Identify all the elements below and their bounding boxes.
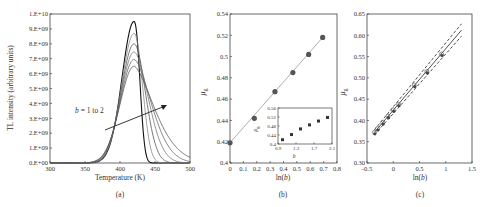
panel-a-curves [50, 21, 190, 163]
x-tick-label: 450 [150, 165, 160, 172]
panel-a-y-ticks: 0.E+001.E+092.E+093.E+094.E+095.E+096.E+… [29, 10, 52, 166]
panel-a-annotation: b = 1 to 2 [75, 106, 104, 115]
y-tick-label: 0.42 [217, 138, 228, 145]
y-tick-label: 7.E+09 [29, 55, 48, 62]
tl-curve [50, 59, 190, 163]
data-point [320, 35, 325, 40]
figure: 0.E+001.E+092.E+093.E+094.E+095.E+096.E+… [0, 0, 483, 207]
y-tick-label: 9.E+09 [29, 25, 48, 32]
y-tick-label: 0.55 [354, 53, 365, 60]
x-tick-label: 0.1 [239, 165, 247, 172]
x-tick-label: 350 [80, 165, 90, 172]
x-tick-label: 0.4 [279, 165, 288, 172]
y-tick-label: 8.E+09 [29, 40, 48, 47]
data-point-filled [426, 71, 429, 74]
y-tick-label: 0.48 [267, 124, 276, 129]
tl-curve [50, 66, 190, 163]
x-tick-label: 0.5 [293, 165, 301, 172]
panel-c-xlabel: ln(b) [413, 173, 428, 182]
data-point [227, 140, 232, 145]
x-tick-label: 300 [45, 165, 55, 172]
x-tick-label: 2.1 [329, 146, 336, 151]
panel-b-xlabel: ln(b) [276, 173, 291, 182]
data-point-filled [387, 116, 390, 119]
tl-curve [50, 21, 190, 163]
y-tick-label: 0.60 [354, 32, 365, 39]
panel-a-tl-curves: 0.E+001.E+092.E+093.E+094.E+095.E+096.E+… [6, 10, 195, 199]
y-tick-label: 0.44 [267, 133, 276, 138]
y-tick-label: 0.44 [217, 117, 229, 124]
tl-curve [50, 52, 190, 163]
y-tick-label: 0.40 [354, 117, 365, 124]
y-tick-label: 0.52 [267, 115, 276, 120]
data-point [306, 52, 311, 57]
y-tick-label: 0.56 [267, 106, 276, 111]
inset-point [290, 133, 293, 136]
y-tick-label: 0.5 [220, 53, 228, 60]
x-tick-label: 0.2 [253, 165, 261, 172]
inset-point [299, 127, 302, 130]
y-tick-label: 6.E+09 [29, 70, 48, 77]
y-tick-label: 1.E+10 [29, 10, 48, 17]
y-tick-label: 1.E+09 [29, 144, 48, 151]
confidence-lower-line [374, 36, 461, 135]
data-point-filled [440, 54, 443, 57]
panel-b-inset-xlabel: b [293, 153, 296, 159]
x-tick-label: 1.3 [293, 146, 300, 151]
y-tick-label: 0.46 [217, 95, 229, 102]
x-tick-label: 0.9 [275, 146, 282, 151]
inset-point [326, 116, 329, 119]
inset-point [317, 120, 320, 123]
panel-a-xlabel: Temperature (K) [95, 173, 146, 182]
data-point [290, 70, 295, 75]
panel-c-mu-vs-lnb-fit: 0.300.350.400.450.500.550.600.65 -0.500.… [338, 10, 476, 199]
panel-b-ylabel: μg [198, 88, 208, 96]
panel-b-mu-vs-lnb: 0.40.420.440.460.480.50.520.54 00.10.20.… [198, 10, 341, 199]
panel-c-ylabel: μg [338, 88, 348, 96]
panel-b-x-ticks: 00.10.20.30.40.50.60.70.8 [228, 161, 341, 172]
y-tick-label: 0.50 [354, 74, 365, 81]
y-tick-label: 0.54 [217, 10, 229, 17]
x-tick-label: 400 [115, 165, 125, 172]
x-tick-label: 0.5 [415, 165, 423, 172]
y-tick-label: 3.E+09 [29, 115, 48, 122]
x-tick-label: 0.7 [320, 165, 329, 172]
x-tick-label: 1 [444, 165, 447, 172]
inset-point [308, 123, 311, 126]
panel-c-data-points [372, 52, 443, 135]
data-point-filled [413, 85, 416, 88]
x-tick-label: 1.5 [468, 165, 476, 172]
data-point [252, 116, 257, 121]
y-tick-label: 2.E+09 [29, 129, 48, 136]
x-tick-label: 0 [228, 165, 231, 172]
x-tick-label: 0.3 [266, 165, 274, 172]
panel-b-inset: 0.40.440.480.520.56 0.91.31.72.1 b μg [252, 106, 336, 159]
x-tick-label: -0.5 [362, 165, 372, 172]
x-tick-label: 500 [185, 165, 195, 172]
data-point-filled [373, 132, 376, 135]
x-tick-label: 0.8 [333, 165, 341, 172]
panel-b-inset-frame [278, 108, 332, 144]
panel-a-ylabel: TL intensity (arbitrary units) [6, 45, 15, 131]
y-tick-label: 0.48 [217, 74, 228, 81]
data-point-filled [392, 110, 395, 113]
inset-point [281, 138, 284, 141]
y-tick-label: 0.65 [354, 10, 365, 17]
x-tick-label: 0 [392, 165, 395, 172]
y-tick-label: 0.52 [217, 32, 228, 39]
data-point [272, 89, 277, 94]
y-tick-label: 0.45 [354, 95, 365, 102]
panel-b-caption: (b) [279, 190, 288, 199]
y-tick-label: 4.E+09 [29, 100, 48, 107]
panel-c-caption: (c) [416, 190, 425, 199]
y-tick-label: 0.35 [354, 138, 365, 145]
panel-a-caption: (a) [116, 190, 125, 199]
data-point-filled [397, 104, 400, 107]
data-point-filled [382, 122, 385, 125]
panel-c-x-ticks: -0.500.511.5 [362, 161, 476, 172]
panel-b-inset-ylabel: μg [252, 126, 260, 132]
y-tick-label: 5.E+09 [29, 85, 48, 92]
x-tick-label: 0.6 [306, 165, 315, 172]
data-point-filled [376, 128, 379, 131]
x-tick-label: 1.7 [311, 146, 318, 151]
